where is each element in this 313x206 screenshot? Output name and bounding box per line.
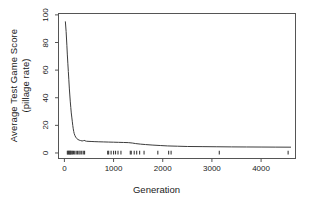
chart-figure: Average Test Game Score (pillage rate) G… [0, 0, 313, 206]
y-tick-label-0: 0 [42, 142, 50, 164]
x-tick-label-1000: 1000 [94, 165, 134, 173]
x-tick-label-4000: 4000 [241, 165, 281, 173]
y-tick-label-100: 100 [42, 4, 50, 26]
x-tick-label-0: 0 [44, 165, 84, 173]
y-tick-label-60: 60 [42, 59, 50, 81]
y-tick-label-40: 40 [42, 87, 50, 109]
plot-frame [59, 14, 296, 159]
x-tick-label-3000: 3000 [192, 165, 232, 173]
y-tick-label-20: 20 [42, 114, 50, 136]
series-line-0 [65, 22, 290, 147]
y-tick-label-80: 80 [42, 32, 50, 54]
x-tick-label-2000: 2000 [143, 165, 183, 173]
